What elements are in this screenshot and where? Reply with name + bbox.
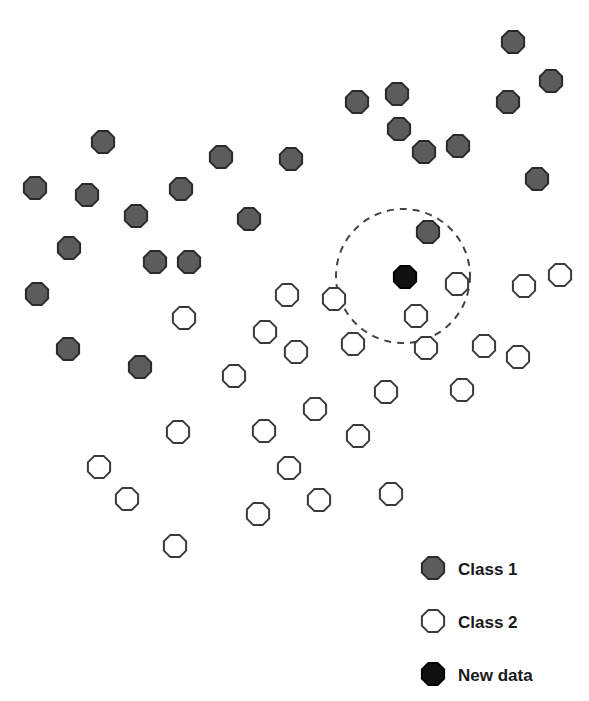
class-2-point — [380, 483, 402, 505]
class-2-point — [473, 335, 495, 357]
class-1-point — [497, 91, 519, 113]
class-2-point — [285, 341, 307, 363]
class-2-point — [116, 488, 138, 510]
class-2-point — [278, 457, 300, 479]
class-1-point — [413, 141, 435, 163]
class-2-point — [323, 288, 345, 310]
class-1-point — [346, 91, 368, 113]
class-1-point — [26, 283, 48, 305]
class-1-point — [280, 148, 302, 170]
legend-label-new-data: New data — [458, 666, 533, 685]
class-1-point — [417, 221, 439, 243]
new-data-marker-icon — [422, 663, 444, 685]
legend-label-class-1: Class 1 — [458, 560, 518, 579]
class-1-marker-icon — [422, 557, 444, 579]
class-1-point — [58, 237, 80, 259]
class-2-point — [167, 421, 189, 443]
class-2-point — [446, 273, 468, 295]
class-2-point — [164, 535, 186, 557]
class-2-point — [415, 337, 437, 359]
new-data-point — [394, 266, 416, 288]
data-points-layer — [24, 31, 571, 557]
class-2-point — [88, 456, 110, 478]
class-1-point — [144, 251, 166, 273]
legend-item-class-2: Class 2 — [422, 610, 518, 632]
class-1-point — [526, 168, 548, 190]
class-2-marker-icon — [422, 610, 444, 632]
class-2-point — [507, 346, 529, 368]
class-2-point — [247, 503, 269, 525]
class-2-point — [308, 489, 330, 511]
legend-label-class-2: Class 2 — [458, 613, 518, 632]
class-2-point — [405, 305, 427, 327]
class-2-point — [513, 275, 535, 297]
class-2-point — [347, 425, 369, 447]
class-1-point — [388, 118, 410, 140]
class-2-point — [253, 420, 275, 442]
class-1-point — [170, 178, 192, 200]
knn-scatter-plot: Class 1 Class 2 New data — [0, 0, 589, 701]
class-2-point — [276, 284, 298, 306]
legend: Class 1 Class 2 New data — [422, 557, 533, 685]
class-2-point — [375, 381, 397, 403]
class-1-point — [76, 184, 98, 206]
class-1-point — [178, 251, 200, 273]
class-1-point — [24, 177, 46, 199]
class-1-point — [386, 83, 408, 105]
class-1-point — [502, 31, 524, 53]
legend-item-class-1: Class 1 — [422, 557, 518, 579]
class-2-point — [173, 307, 195, 329]
class-1-point — [57, 338, 79, 360]
class-2-point — [254, 321, 276, 343]
class-1-point — [92, 131, 114, 153]
legend-item-new-data: New data — [422, 663, 533, 685]
class-2-point — [451, 379, 473, 401]
class-1-point — [540, 70, 562, 92]
class-2-point — [342, 333, 364, 355]
class-2-point — [549, 264, 571, 286]
class-2-point — [223, 365, 245, 387]
class-1-point — [129, 356, 151, 378]
class-1-point — [238, 208, 260, 230]
class-2-point — [304, 398, 326, 420]
class-1-point — [125, 205, 147, 227]
class-1-point — [447, 135, 469, 157]
class-1-point — [210, 146, 232, 168]
